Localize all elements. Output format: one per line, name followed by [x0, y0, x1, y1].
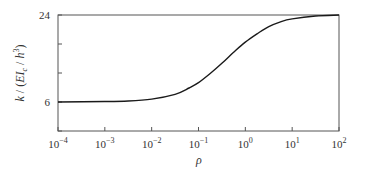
x-tick-label: 10−4: [48, 136, 68, 150]
x-tick-label: 10−3: [95, 136, 115, 150]
x-axis-ticks: [58, 127, 339, 131]
y-tick-label-6: 6: [45, 96, 51, 108]
x-tick-label: 101: [285, 136, 300, 150]
x-tick-label: 102: [332, 136, 347, 150]
y-label-div: /: [13, 59, 27, 68]
x-tick-label: 10−1: [189, 136, 209, 150]
x-axis-tick-labels: 10−410−310−210−1100101102: [48, 136, 346, 150]
data-line: [58, 15, 339, 102]
chart: 10−410−310−210−1100101102 24 6 ρ k / (EI…: [0, 0, 366, 180]
y-tick-label-24: 24: [39, 9, 51, 21]
x-tick-label: 10−2: [142, 136, 162, 150]
y-label-sep: / (: [13, 83, 27, 96]
x-tick-label: 100: [238, 136, 253, 150]
y-axis-label: k / (EIc / h3): [12, 45, 29, 102]
y-axis-ticks: [58, 15, 62, 131]
plot-frame: [58, 15, 339, 131]
y-label-EI: EI: [13, 70, 27, 83]
x-axis-label: ρ: [195, 153, 202, 167]
y-label-close: ): [13, 45, 27, 49]
plot-border: [58, 15, 339, 131]
